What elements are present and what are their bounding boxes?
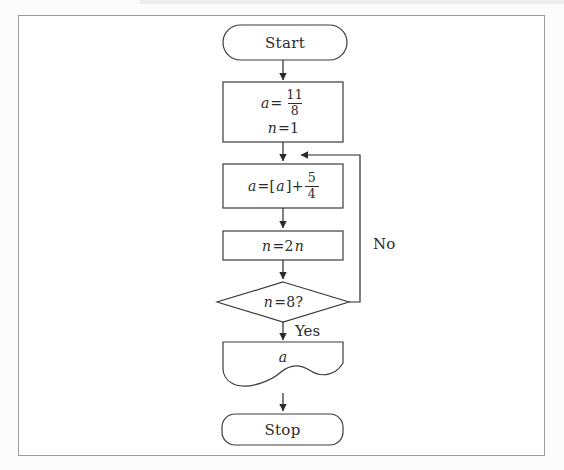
init-line-1: a= 11 8 [260, 88, 306, 118]
var-n: n [267, 120, 278, 136]
figure-canvas: Start a= 11 8 n=1 a=[a]+ 5 4 n=2n [0, 0, 564, 470]
fraction-numerator: 5 [305, 171, 319, 185]
fraction-5-4: 5 4 [305, 171, 319, 201]
fraction-denominator: 8 [288, 103, 302, 118]
init-line-2: n=1 [267, 120, 300, 136]
var-n: n [261, 238, 272, 254]
equals-open-bracket: =[ [258, 178, 276, 194]
fraction-denominator: 4 [305, 186, 319, 201]
var-a-output: a [278, 349, 289, 365]
var-n-2: n [294, 238, 305, 254]
fraction-11-8: 11 8 [284, 88, 307, 118]
yes-edge-label: Yes [295, 322, 320, 340]
init-box-content: a= 11 8 n=1 [223, 82, 343, 142]
var-a-floor: a [275, 178, 286, 194]
equals-two: =2 [272, 238, 293, 254]
fraction-numerator: 11 [284, 88, 307, 102]
decision-line: n=8? [263, 294, 303, 310]
close-bracket-plus: ]+ [286, 178, 304, 194]
stop-node-label: Stop [222, 414, 343, 445]
equals-sign: = [271, 95, 283, 111]
var-a: a [247, 178, 258, 194]
output-node-content: a [223, 342, 343, 372]
decision-content: n=8? [217, 282, 349, 322]
assign-box-content: a=[a]+ 5 4 [223, 164, 343, 208]
double-box-content: n=2n [223, 231, 343, 260]
n-value: =1 [278, 120, 299, 136]
var-n: n [263, 294, 274, 310]
no-edge-label: No [373, 235, 395, 253]
var-a: a [260, 95, 271, 111]
start-node-label: Start [223, 25, 347, 60]
double-line: n=2n [261, 238, 305, 254]
equals-eight-question: =8? [274, 294, 303, 310]
assign-line: a=[a]+ 5 4 [247, 171, 319, 201]
